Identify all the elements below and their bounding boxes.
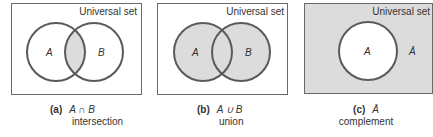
caption-b: (b)A ∪ B union <box>197 104 243 128</box>
caption-word: union <box>197 116 243 128</box>
panel-b-union: Universal set A B <box>158 4 288 95</box>
caption-tag: (c) <box>353 104 365 115</box>
set-b-label: B <box>245 47 252 58</box>
set-a-label: A <box>191 47 199 58</box>
caption-expression: A ∩ B <box>69 104 95 115</box>
caption-expression: Ā <box>372 104 379 115</box>
caption-a: (a)A ∩ B intersection <box>50 104 123 128</box>
panel-a-intersection: Universal set A B <box>12 4 142 95</box>
caption-word: complement <box>336 116 396 128</box>
universal-set-label: Universal set <box>372 6 430 17</box>
caption-c: (c)Ā complement <box>336 104 396 128</box>
caption-tag: (b) <box>197 104 210 115</box>
caption-word: intersection <box>50 116 123 128</box>
panel-c-complement: Universal set A Ā <box>305 4 433 94</box>
set-b-label: B <box>98 47 105 58</box>
complement-label: Ā <box>408 46 416 57</box>
set-a-label: A <box>363 46 371 57</box>
set-a-label: A <box>45 47 53 58</box>
caption-tag: (a) <box>50 104 62 115</box>
universal-set-label: Universal set <box>226 6 284 17</box>
universal-set-label: Universal set <box>79 6 137 17</box>
caption-expression: A ∪ B <box>217 104 243 115</box>
